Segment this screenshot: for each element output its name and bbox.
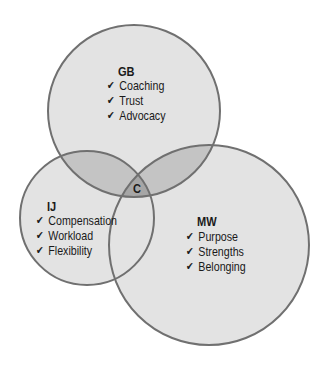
list-item: ✔Trust [107, 93, 166, 108]
list-item: ✔Workload [36, 228, 117, 243]
list-item: ✔Strengths [186, 244, 246, 259]
check-icon: ✔ [36, 213, 46, 228]
list-item: ✔Advocacy [107, 108, 166, 123]
check-icon: ✔ [107, 93, 117, 108]
set-title-mw: MW [197, 214, 217, 229]
check-icon: ✔ [107, 78, 117, 93]
check-icon: ✔ [186, 259, 196, 274]
list-item: ✔Coaching [107, 78, 166, 93]
check-icon: ✔ [186, 244, 196, 259]
list-item: ✔Compensation [36, 213, 117, 228]
venn-diagram [0, 0, 325, 370]
center-label: C [133, 181, 141, 196]
set-title-ij: IJ [47, 199, 56, 214]
check-icon: ✔ [186, 229, 196, 244]
check-icon: ✔ [36, 243, 46, 258]
check-icon: ✔ [36, 228, 46, 243]
list-item: ✔Belonging [186, 259, 246, 274]
set-title-gb: GB [118, 64, 135, 79]
list-item: ✔Purpose [186, 229, 246, 244]
check-icon: ✔ [107, 108, 117, 123]
list-item: ✔Flexibility [36, 243, 117, 258]
